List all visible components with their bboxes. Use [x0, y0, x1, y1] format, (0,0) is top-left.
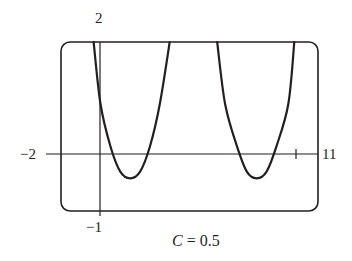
parameter-caption: C = 0.5 [172, 233, 220, 249]
caption-variable: C [172, 232, 183, 249]
ymin-label: −1 [86, 220, 102, 235]
curves [94, 42, 295, 178]
graph-plot [0, 0, 352, 261]
xmin-label: −2 [20, 147, 36, 162]
curve-1 [94, 42, 170, 178]
ymax-label: 2 [95, 11, 103, 26]
caption-equals: = [183, 232, 200, 249]
caption-value: 0.5 [200, 232, 220, 249]
xmax-label: 11 [322, 147, 336, 162]
curve-2 [217, 42, 294, 178]
